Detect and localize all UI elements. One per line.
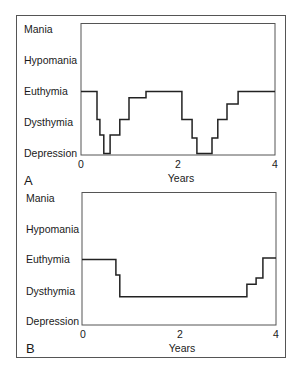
mood-line-b	[82, 258, 276, 297]
mood-line-a	[81, 92, 275, 154]
chart-canvas	[0, 0, 300, 376]
